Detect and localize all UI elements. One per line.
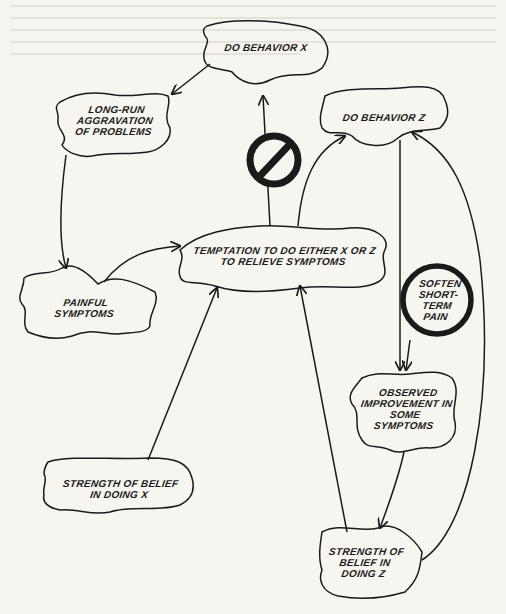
node-long-run-aggravation: LONG-RUN AGGRAVATION OF PROBLEMS	[68, 104, 163, 137]
node-label-line: PAIN	[407, 311, 465, 322]
node-label-line: PAINFUL	[40, 297, 132, 308]
node-label-line: OF PROBLEMS	[68, 126, 160, 137]
node-label-line: LONG-RUN	[71, 104, 163, 115]
node-observed-improvement: OBSERVED IMPROVEMENT IN SOME SYMPTOMS	[353, 387, 459, 431]
node-strength-belief-x: STRENGTH OF BELIEF IN DOING X	[48, 478, 191, 500]
node-label-line: IMPROVEMENT IN	[356, 398, 458, 409]
node-label-line: SHORT-	[410, 289, 468, 300]
edge-soften-to-improvement	[406, 340, 410, 370]
edge-do-x-to-aggravation	[172, 64, 210, 94]
node-label-line: BELIEF IN	[321, 557, 409, 568]
node-label-line: AGGRAVATION	[69, 115, 161, 126]
node-label-line: STRENGTH OF BELIEF	[50, 478, 192, 489]
node-label-line: DO BEHAVIOR X	[217, 42, 315, 53]
node-soften-short-term-pain: SOFTEN SHORT- TERM PAIN	[407, 278, 469, 322]
node-strength-belief-z: STRENGTH OF BELIEF IN DOING Z	[320, 546, 411, 579]
node-label-line: DOING Z	[320, 568, 408, 579]
node-label-line: TO RELIEVE SYMPTOMS	[184, 256, 382, 267]
node-do-behavior-z: DO BEHAVIOR Z	[333, 112, 435, 123]
edge-improvement-to-belief-z	[380, 452, 404, 528]
node-label-line: TEMPTATION TO DO EITHER X OR Z	[186, 245, 384, 256]
edge-painful-to-temptation	[104, 246, 180, 282]
node-label-line: OBSERVED	[358, 387, 460, 398]
edge-belief-x-to-temptation	[148, 288, 217, 460]
node-label-line: TERM	[408, 300, 466, 311]
no-entry-icon	[250, 136, 298, 184]
node-label-line: DO BEHAVIOR Z	[333, 112, 435, 123]
node-label-line: SOFTEN	[412, 278, 470, 289]
edge-aggravation-to-painful	[61, 155, 66, 268]
node-painful-symptoms: PAINFUL SYMPTOMS	[38, 297, 131, 319]
edge-temptation-to-do-z	[298, 136, 345, 226]
node-label-line: SYMPTOMS	[38, 308, 130, 319]
edge-belief-z-to-temptation	[300, 286, 347, 532]
node-label-line: SOME	[354, 409, 456, 420]
node-label-line: IN DOING X	[48, 489, 190, 500]
node-label-line: STRENGTH OF	[323, 546, 411, 557]
node-temptation: TEMPTATION TO DO EITHER X OR Z TO RELIEV…	[184, 245, 383, 267]
edge-belief-z-to-do-z	[412, 132, 484, 560]
node-label-line: SYMPTOMS	[353, 420, 455, 431]
node-do-behavior-x: DO BEHAVIOR X	[217, 42, 315, 53]
